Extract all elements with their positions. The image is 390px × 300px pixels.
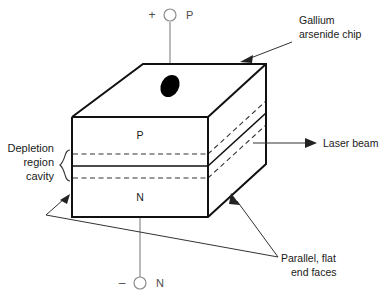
n-terminal-sign: –	[119, 276, 126, 290]
layer-label-n: N	[136, 191, 144, 203]
gallium-label-line2: arsenide chip	[299, 28, 362, 40]
p-terminal-label: P	[186, 9, 193, 21]
gallium-label-line1: Gallium	[299, 14, 335, 26]
gallium-callout-leader-line	[248, 42, 292, 59]
end-faces-leader-line-right	[237, 201, 278, 257]
end-faces-label-line1: Parallel, flat	[281, 252, 336, 264]
end-faces-arrowhead-left-icon	[60, 194, 70, 204]
end-faces-label-line2: end faces	[291, 266, 337, 278]
diagram-canvas: + P – N P N Depletion	[0, 0, 390, 300]
laser-beam-label: Laser beam	[323, 137, 379, 149]
depletion-label-line1: Depletion	[8, 142, 54, 154]
p-terminal-sign: +	[148, 8, 155, 22]
laser-beam-arrowhead-icon	[305, 138, 317, 148]
laser-diode-diagram: + P – N P N Depletion	[0, 0, 390, 300]
depletion-region-brace	[60, 150, 70, 181]
end-faces-leader-elbow-left	[46, 199, 64, 215]
depletion-label-line2: region	[23, 156, 54, 168]
layer-label-p: P	[136, 129, 143, 141]
depletion-label-line3: cavity	[26, 170, 55, 182]
n-terminal-label: N	[156, 277, 164, 289]
end-faces-leader-line-left	[46, 215, 278, 257]
gallium-callout-arrowhead-icon	[240, 55, 253, 63]
n-terminal-node-icon	[134, 277, 146, 289]
p-terminal-node-icon	[164, 9, 176, 21]
